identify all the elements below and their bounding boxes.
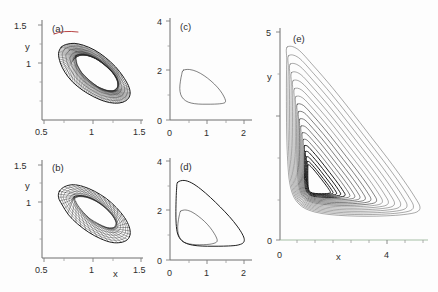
panel-a-ylabel: y xyxy=(25,41,30,52)
panel-e-xtick-0: 0 xyxy=(277,250,282,260)
panel-e-ylabel: y xyxy=(267,71,272,82)
panel-e-ytick-0: 0 xyxy=(267,236,272,246)
panel-b-torus xyxy=(58,185,130,243)
panel-a: 1.5 1 y 0.5 1 1.5 (a) xyxy=(0,8,150,148)
panel-d-xtick-1: 1 xyxy=(204,268,209,278)
panel-b: 1.5 1 y 0.5 1 1.5 x (b) xyxy=(0,150,170,292)
panel-b-ytick-1: 1.5 xyxy=(14,161,27,171)
panel-d: 4 2 0 0 1 2 (d) xyxy=(148,150,258,292)
panel-a-ytick-0: 1 xyxy=(26,59,31,69)
panel-c-ytick-0: 0 xyxy=(157,116,162,126)
panel-b-label: (b) xyxy=(52,162,64,173)
panel-d-xtick-0: 0 xyxy=(167,268,172,278)
panel-d-period2-orbit xyxy=(176,180,244,246)
panel-e: 5 0 y 0 4 x (e) xyxy=(248,8,438,288)
panel-b-ylabel: y xyxy=(25,180,30,191)
panel-b-ytick-0: 1 xyxy=(26,198,31,208)
panel-d-label: (d) xyxy=(180,161,192,172)
panel-b-xtick-2: 1.5 xyxy=(133,265,146,275)
panel-e-xtick-1: 4 xyxy=(384,250,389,260)
panel-d-ytick-0: 0 xyxy=(157,256,162,266)
panel-a-xtick-2: 1.5 xyxy=(133,127,146,137)
panel-c-xtick-2: 2 xyxy=(241,128,246,138)
panel-a-xtick-0: 0.5 xyxy=(35,127,48,137)
panel-d-xtick-2: 2 xyxy=(241,268,246,278)
panel-a-torus xyxy=(54,32,130,104)
panel-e-label: (e) xyxy=(293,33,305,44)
panel-d-ytick-1: 2 xyxy=(157,206,162,216)
panel-a-ytick-1: 1.5 xyxy=(14,21,27,31)
panel-e-ytick-1: 5 xyxy=(266,28,271,38)
panel-e-chaotic-attractor xyxy=(286,46,420,216)
panel-c: 4 2 0 0 1 2 (c) xyxy=(148,8,258,148)
panel-c-ytick-1: 2 xyxy=(157,66,162,76)
panel-b-xlabel: x xyxy=(113,268,118,279)
panel-c-xtick-1: 1 xyxy=(204,128,209,138)
panel-e-xlabel: x xyxy=(336,251,341,262)
panel-c-xtick-0: 0 xyxy=(167,128,172,138)
panel-d-ytick-2: 4 xyxy=(157,157,162,167)
panel-b-xtick-0: 0.5 xyxy=(35,265,48,275)
panel-a-xtick-1: 1 xyxy=(89,127,94,137)
phase-portrait-figure: 1.5 1 y 0.5 1 1.5 (a) xyxy=(0,0,438,292)
panel-c-limit-cycle xyxy=(180,69,226,104)
panel-c-ytick-2: 4 xyxy=(157,17,162,27)
panel-b-xtick-1: 1 xyxy=(89,265,94,275)
panel-c-label: (c) xyxy=(180,21,191,32)
